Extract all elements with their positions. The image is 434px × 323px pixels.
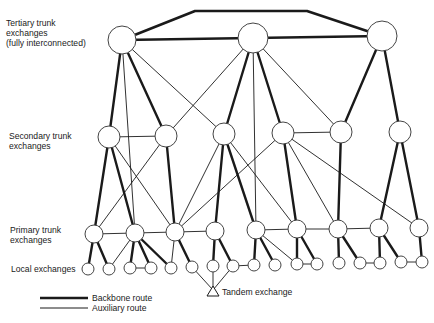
secondary-exchange-node-S6 bbox=[389, 121, 411, 143]
local-exchange-node-L12 bbox=[311, 258, 323, 270]
backbone-route-T3-S5 bbox=[341, 36, 382, 132]
local-exchange-node-L5 bbox=[165, 262, 177, 274]
local-exchange-node-L9 bbox=[248, 259, 260, 271]
tertiary-exchange-node-T2 bbox=[238, 23, 268, 53]
local-exchange-node-L13 bbox=[333, 257, 345, 269]
local-exchange-node-L2 bbox=[103, 263, 115, 275]
local-exchange-node-L14 bbox=[354, 257, 366, 269]
backbone-route-T1-S1 bbox=[109, 40, 122, 137]
auxiliary-route-T2-S2 bbox=[166, 38, 253, 136]
label-line: Primary trunk bbox=[10, 225, 61, 235]
auxiliary-route-S1-P3 bbox=[109, 137, 175, 232]
local-exchange-node-L11 bbox=[291, 258, 303, 270]
local-exchange-node-L17 bbox=[416, 256, 428, 268]
secondary-exchange-node-S4 bbox=[272, 122, 294, 144]
local-exchange-node-L4 bbox=[145, 262, 157, 274]
backbone-route-S4-P6 bbox=[283, 133, 297, 229]
label-local-exchanges: Local exchanges bbox=[11, 264, 76, 274]
auxiliary-route-S2-P1 bbox=[94, 136, 166, 234]
secondary-exchange-node-S2 bbox=[155, 125, 177, 147]
auxiliary-route-S4-P7 bbox=[283, 133, 338, 229]
backbone-route-T1_T2 bbox=[122, 38, 253, 40]
backbone-route-S5-P7 bbox=[338, 132, 341, 229]
auxiliary-route-T2-P5 bbox=[253, 38, 256, 230]
primary-exchange-node-P7 bbox=[329, 220, 347, 238]
primary-exchange-node-P2 bbox=[126, 224, 144, 242]
backbone-route-T1-S2 bbox=[122, 40, 166, 136]
telephone-network-hierarchy-diagram bbox=[0, 0, 434, 323]
backbone-route-S2-P3 bbox=[166, 136, 175, 232]
backbone-route-S1-P1 bbox=[94, 137, 109, 234]
label-line: Tertiary trunk bbox=[6, 18, 86, 28]
backbone-route-T2_T3 bbox=[253, 36, 382, 38]
tertiary-exchange-node-T1 bbox=[108, 26, 136, 54]
local-exchange-node-L3 bbox=[124, 262, 136, 274]
legend bbox=[40, 298, 88, 308]
label-line: exchanges bbox=[10, 235, 61, 245]
label-line: Secondary trunk bbox=[9, 131, 72, 141]
auxiliary-route-T1-S3 bbox=[122, 40, 224, 134]
secondary-exchange-node-S1 bbox=[98, 126, 120, 148]
local-exchange-node-L1 bbox=[82, 263, 94, 275]
secondary-exchange-node-S3 bbox=[213, 123, 235, 145]
label-tandem-exchange: Tandem exchange bbox=[222, 287, 292, 297]
label-primary-exchanges: Primary trunk exchanges bbox=[10, 225, 61, 245]
secondary-exchange-node-S5 bbox=[330, 121, 352, 143]
label-line: (fully interconnected) bbox=[6, 38, 86, 48]
primary-exchange-node-P4 bbox=[206, 222, 224, 240]
primary-exchange-node-P3 bbox=[166, 223, 184, 241]
auxiliary-route-S4-P9 bbox=[283, 133, 419, 228]
legend-auxiliary-label: Auxiliary route bbox=[92, 303, 146, 313]
local-exchange-node-L10 bbox=[269, 259, 281, 271]
backbone-route-S6-P8 bbox=[379, 132, 400, 228]
label-secondary-exchanges: Secondary trunk exchanges bbox=[9, 131, 72, 151]
primary-exchange-node-P6 bbox=[288, 220, 306, 238]
local-exchange-node-L15 bbox=[374, 257, 386, 269]
local-exchange-node-L16 bbox=[395, 256, 407, 268]
tandem-exchange-triangle-icon bbox=[207, 286, 219, 296]
auxiliary-route-T2-S5 bbox=[253, 38, 341, 132]
primary-exchange-node-P8 bbox=[370, 219, 388, 237]
local-exchange-node-L7 bbox=[207, 260, 219, 272]
primary-exchange-node-P1 bbox=[85, 225, 103, 243]
backbone-route-S6-P9 bbox=[400, 132, 419, 228]
label-line: exchanges bbox=[9, 141, 72, 151]
primary-exchange-node-P5 bbox=[247, 221, 265, 239]
backbone-route-S1-P2 bbox=[109, 137, 135, 233]
local-exchange-node-L6 bbox=[186, 261, 198, 273]
legend-backbone-label: Backbone route bbox=[92, 293, 152, 303]
primary-exchange-node-P9 bbox=[410, 219, 428, 237]
tertiary-exchange-node-T3 bbox=[367, 21, 397, 51]
label-line: exchanges bbox=[6, 28, 86, 38]
label-tertiary-exchanges: Tertiary trunk exchanges (fully intercon… bbox=[6, 18, 86, 48]
local-exchange-node-L8 bbox=[227, 260, 239, 272]
backbone-route-S3-P5 bbox=[224, 134, 256, 230]
